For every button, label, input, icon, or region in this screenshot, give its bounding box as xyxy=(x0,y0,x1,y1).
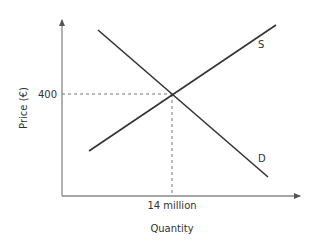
demand-curve xyxy=(98,30,268,177)
x-axis-label: Quantity xyxy=(150,223,193,234)
demand-label: D xyxy=(258,153,266,164)
supply-label: S xyxy=(258,39,264,50)
supply-curve xyxy=(89,25,276,151)
supply-demand-chart: S D 400 14 million Quantity Price (€) xyxy=(0,0,319,246)
y-tick-label: 400 xyxy=(38,89,57,100)
x-tick-label: 14 million xyxy=(147,200,196,211)
y-axis-label: Price (€) xyxy=(18,87,29,129)
